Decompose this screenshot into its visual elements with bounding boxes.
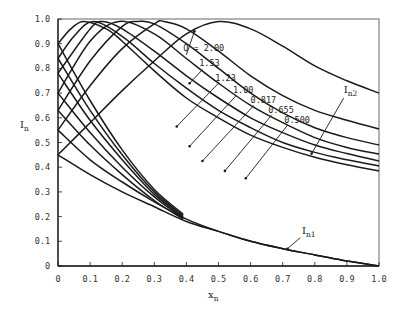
y-tick-label: 0.8 bbox=[35, 63, 50, 73]
y-tick-label: 0.6 bbox=[35, 113, 50, 123]
leader-line bbox=[225, 115, 272, 171]
x-tick-label: 1.0 bbox=[371, 274, 386, 284]
leader-dot bbox=[310, 152, 313, 155]
leader-dot bbox=[244, 177, 247, 180]
x-tick-label: 0.1 bbox=[82, 274, 97, 284]
y-tick-label: 0.2 bbox=[35, 212, 50, 222]
curve-labels: Q = 2.001.531.231.000.8170.6550.500In2In… bbox=[183, 43, 357, 239]
x-tick-label: 0 bbox=[55, 274, 60, 284]
x-tick-label: 0.2 bbox=[115, 274, 130, 284]
curve-label: 0.817 bbox=[251, 95, 277, 105]
leader-dot bbox=[201, 160, 204, 163]
x-tick-label: 0.6 bbox=[243, 274, 258, 284]
y-tick-label: 0.3 bbox=[35, 187, 50, 197]
y-tick-label: 0.5 bbox=[35, 138, 50, 148]
x-tick-label: 0.3 bbox=[147, 274, 162, 284]
leader-line bbox=[288, 238, 301, 249]
y-axis-label: In bbox=[20, 119, 29, 133]
leader-dot bbox=[188, 82, 191, 85]
curve-label: 1.23 bbox=[215, 73, 235, 83]
curve-label: In1 bbox=[302, 225, 316, 239]
y-tick-label: 0.1 bbox=[35, 236, 50, 246]
y-tick-label: 0.7 bbox=[35, 88, 50, 98]
curve-label: In2 bbox=[344, 84, 358, 98]
leader-dot bbox=[175, 125, 178, 128]
y-tick-label: 1.0 bbox=[35, 14, 50, 24]
leader-dot bbox=[224, 170, 227, 173]
x-tick-label: 0.7 bbox=[275, 274, 290, 284]
curve-label: 0.500 bbox=[284, 115, 310, 125]
x-tick-label: 0.9 bbox=[339, 274, 354, 284]
y-tick-label: 0.4 bbox=[35, 162, 50, 172]
leader-dot bbox=[286, 247, 289, 250]
leader-dot bbox=[193, 30, 196, 33]
in1-curve bbox=[58, 44, 183, 214]
x-axis-label: xn bbox=[208, 289, 219, 303]
in1-curve bbox=[58, 73, 183, 216]
leader-line bbox=[246, 125, 288, 178]
x-tick-label: 0.4 bbox=[179, 274, 194, 284]
leader-line bbox=[177, 83, 219, 126]
axis-ticks: 00.10.20.30.40.50.60.70.80.91.000.10.20.… bbox=[35, 14, 387, 284]
curve-label: 0.655 bbox=[268, 105, 294, 115]
curve-label: 1.53 bbox=[199, 58, 219, 68]
curve-label: Q = 2.00 bbox=[183, 43, 224, 53]
chart: 00.10.20.30.40.50.60.70.80.91.000.10.20.… bbox=[0, 0, 405, 318]
y-tick-label: 0 bbox=[45, 261, 50, 271]
leader-line bbox=[190, 70, 203, 84]
leader-line bbox=[190, 96, 237, 147]
leader-dot bbox=[188, 145, 191, 148]
curve-label: 1.00 bbox=[233, 85, 253, 95]
x-tick-label: 0.5 bbox=[211, 274, 226, 284]
y-tick-label: 0.9 bbox=[35, 39, 50, 49]
x-tick-label: 0.8 bbox=[307, 274, 322, 284]
